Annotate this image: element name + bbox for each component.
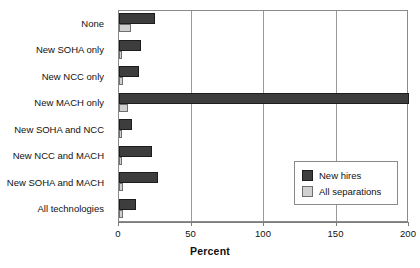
x-tick-100 xyxy=(263,222,264,226)
x-tick-label-100: 100 xyxy=(255,228,271,239)
category-label: New MACH only xyxy=(0,97,104,108)
bar-all-separations xyxy=(119,104,128,112)
gridline-100 xyxy=(263,11,264,221)
bar-new-hires xyxy=(119,66,139,77)
x-axis-title: Percent xyxy=(0,245,420,257)
x-tick-50 xyxy=(191,222,192,226)
category-label: All technologies xyxy=(0,203,104,214)
legend-label-new-hires: New hires xyxy=(319,170,361,181)
x-tick-label-50: 50 xyxy=(185,228,196,239)
legend-item-all-separations: All separations xyxy=(302,184,391,198)
x-tick-label-0: 0 xyxy=(115,228,120,239)
legend-swatch-all-separations xyxy=(302,186,313,197)
category-label: New SOHA only xyxy=(0,44,104,55)
bar-new-hires xyxy=(119,172,158,183)
bar-new-hires xyxy=(119,199,136,210)
bar-all-separations xyxy=(119,157,122,165)
bar-all-separations xyxy=(119,183,123,191)
category-axis-labels: NoneNew SOHA onlyNew NCC onlyNew MACH on… xyxy=(0,10,110,222)
bar-all-separations xyxy=(119,77,123,85)
x-tick-150 xyxy=(336,222,337,226)
bar-all-separations xyxy=(119,130,122,138)
chart-legend: New hires All separations xyxy=(294,161,398,205)
x-tick-label-200: 200 xyxy=(400,228,416,239)
bar-chart: NoneNew SOHA onlyNew NCC onlyNew MACH on… xyxy=(0,0,420,268)
legend-swatch-new-hires xyxy=(302,170,313,181)
gridline-50 xyxy=(191,11,192,221)
x-tick-label-150: 150 xyxy=(328,228,344,239)
bar-new-hires xyxy=(119,119,132,130)
bar-all-separations xyxy=(119,24,131,32)
bar-new-hires xyxy=(119,146,152,157)
category-label: New NCC and MACH xyxy=(0,150,104,161)
bar-new-hires xyxy=(119,40,141,51)
category-label: New NCC only xyxy=(0,71,104,82)
legend-item-new-hires: New hires xyxy=(302,168,391,182)
legend-label-all-separations: All separations xyxy=(319,186,381,197)
x-tick-0 xyxy=(118,222,119,226)
bar-new-hires xyxy=(119,13,155,24)
category-label: None xyxy=(0,18,104,29)
x-tick-200 xyxy=(408,222,409,226)
category-label: New SOHA and MACH xyxy=(0,177,104,188)
category-label: New SOHA and NCC xyxy=(0,124,104,135)
bar-new-hires xyxy=(119,93,409,104)
bar-all-separations xyxy=(119,51,122,59)
bar-all-separations xyxy=(119,210,123,218)
